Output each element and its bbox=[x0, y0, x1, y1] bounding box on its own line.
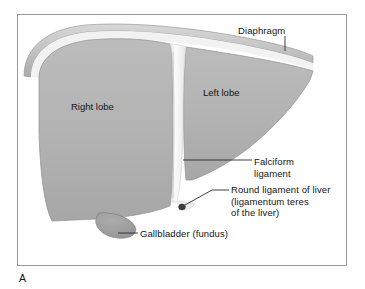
annotation-label-round-ligament: Round ligament of liver(ligamentum teres… bbox=[231, 184, 330, 219]
round-ligament-line-1: Round ligament of liver bbox=[231, 184, 330, 195]
gallbladder-fundus bbox=[96, 213, 136, 238]
annotation-label-diaphragm: Diaphragm bbox=[238, 25, 285, 37]
liver-anatomy-figure: Diaphragm Falciformligament Round ligame… bbox=[0, 0, 365, 289]
figure-panel-letter: A bbox=[19, 272, 26, 284]
leader-round-ligament bbox=[185, 190, 229, 205]
liver-illustration bbox=[0, 0, 365, 289]
organ-label-left-lobe: Left lobe bbox=[203, 87, 239, 99]
falciform-line-2: ligament bbox=[254, 168, 291, 179]
round-ligament-knob bbox=[179, 204, 186, 210]
annotation-label-gallbladder: Gallbladder (fundus) bbox=[140, 228, 228, 240]
round-ligament-line-3: of the liver) bbox=[231, 207, 279, 218]
right-lobe-body bbox=[39, 39, 173, 221]
organ-label-right-lobe: Right lobe bbox=[71, 101, 114, 113]
round-ligament-line-2: (ligamentum teres bbox=[231, 196, 309, 207]
annotation-label-falciform-ligament: Falciformligament bbox=[254, 156, 294, 179]
falciform-line-1: Falciform bbox=[254, 156, 294, 167]
